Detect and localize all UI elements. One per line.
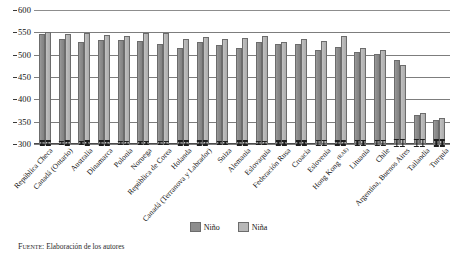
bar-girl: [45, 10, 51, 144]
bar-group: [212, 10, 232, 144]
error-bar: [264, 141, 265, 145]
x-axis-category-labels: República ChecaCanadá (Ontario)Australia…: [34, 146, 450, 216]
bar-rect: [242, 38, 248, 144]
bar-group: [114, 10, 134, 144]
y-tick-550: 550: [18, 27, 31, 37]
error-bar: [126, 141, 127, 145]
bar-rect: [124, 36, 130, 144]
bar-rect: [341, 36, 347, 144]
legend-item-girl[interactable]: Niña: [238, 222, 268, 232]
error-bar: [140, 141, 141, 145]
error-bar: [81, 141, 82, 145]
bar-group: [94, 10, 114, 144]
bar-rect: [420, 113, 426, 144]
bar-group: [232, 10, 252, 144]
bar-girl: [203, 10, 209, 144]
error-bar: [120, 141, 121, 145]
bar-girl: [262, 10, 268, 144]
bar-group: [311, 10, 331, 144]
y-tick-600: 600: [18, 5, 31, 15]
bar-girl: [65, 10, 71, 144]
bar-group: [252, 10, 272, 144]
bar-rect: [360, 48, 366, 144]
bar-rect: [163, 33, 169, 144]
error-bar: [337, 140, 338, 145]
error-bar: [258, 141, 259, 145]
y-tick-dash: [13, 10, 17, 11]
bar-girl: [222, 10, 228, 144]
bar-rect: [380, 50, 386, 144]
bar-group: [35, 10, 55, 144]
bar-series-group: [34, 10, 450, 144]
y-tick-dash: [13, 99, 17, 100]
bar-group: [331, 10, 351, 144]
bar-girl: [400, 10, 406, 144]
error-bar: [298, 140, 299, 145]
bar-girl: [242, 10, 248, 144]
legend-label: Niño: [204, 223, 220, 232]
error-bar: [41, 140, 42, 145]
y-tick-400: 400: [18, 94, 31, 104]
bar-group: [410, 10, 430, 144]
chart-container: 300350400450500550600 República ChecaCan…: [0, 0, 457, 255]
bar-girl: [341, 10, 347, 144]
error-bar: [225, 141, 226, 145]
bar-girl: [301, 10, 307, 144]
x-label-lituania: Lituania: [348, 146, 372, 171]
error-bar: [179, 140, 180, 145]
error-bar: [284, 140, 285, 145]
error-bar: [199, 140, 200, 145]
bar-rect: [143, 33, 149, 144]
y-tick-dash: [13, 77, 17, 78]
bar-girl: [380, 10, 386, 144]
y-tick-500: 500: [18, 50, 31, 60]
bar-girl: [183, 10, 189, 144]
y-tick-dash: [13, 55, 17, 56]
error-bar: [278, 140, 279, 145]
error-bar: [238, 140, 239, 145]
y-tick-350: 350: [18, 117, 31, 127]
error-bar: [61, 141, 62, 145]
bar-girl: [163, 10, 169, 144]
bar-girl: [143, 10, 149, 144]
bar-group: [55, 10, 75, 144]
source-text: Elaboración de los autores: [44, 242, 124, 251]
bar-rect: [45, 32, 51, 144]
legend-item-boy[interactable]: Niño: [190, 222, 220, 232]
x-label-turqu-a: Turquía: [428, 146, 451, 170]
bar-rect: [400, 65, 406, 144]
bar-girl: [84, 10, 90, 144]
bar-rect: [321, 41, 327, 144]
legend-label: Niña: [252, 223, 268, 232]
bar-rect: [301, 39, 307, 144]
bar-rect: [65, 34, 71, 144]
bar-girl: [420, 10, 426, 144]
bar-rect: [104, 35, 110, 144]
bar-group: [370, 10, 390, 144]
bar-group: [173, 10, 193, 144]
bar-rect: [439, 118, 445, 144]
bar-girl: [439, 10, 445, 144]
y-tick-300: 300: [18, 139, 31, 149]
y-tick-dash: [13, 32, 17, 33]
error-bar: [304, 140, 305, 145]
error-bar: [343, 140, 344, 145]
y-tick-450: 450: [18, 72, 31, 82]
bar-group: [429, 10, 449, 144]
bar-rect: [84, 33, 90, 144]
bar-group: [390, 10, 410, 144]
bar-girl: [360, 10, 366, 144]
bar-girl: [321, 10, 327, 144]
bar-group: [351, 10, 371, 144]
bar-rect: [222, 39, 228, 144]
bar-rect: [203, 37, 209, 144]
bar-girl: [124, 10, 130, 144]
error-bar: [160, 141, 161, 145]
bar-group: [134, 10, 154, 144]
bar-group: [291, 10, 311, 144]
chart-legend: NiñoNiña: [0, 222, 457, 232]
error-bar: [100, 140, 101, 145]
bar-rect: [262, 36, 268, 144]
legend-swatch-icon: [238, 222, 249, 232]
bar-rect: [281, 42, 287, 144]
